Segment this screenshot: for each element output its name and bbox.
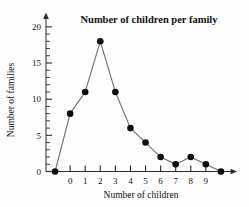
data-point [187, 154, 194, 161]
data-point [82, 89, 89, 96]
y-tick-label: 15 [32, 58, 42, 68]
data-point [97, 38, 104, 45]
line-chart-canvas: Number of children per family 05101520 0… [0, 0, 249, 207]
x-tick-label: 6 [158, 176, 163, 186]
y-tick-label: 5 [37, 131, 42, 141]
x-tick-label: 0 [68, 176, 73, 186]
chart-title: Number of children per family [80, 14, 218, 25]
data-point [172, 161, 179, 168]
data-point [157, 154, 164, 161]
data-point [67, 110, 74, 117]
y-tick-label: 20 [32, 22, 42, 32]
x-axis-title: Number of children [104, 190, 179, 200]
x-tick-label: 8 [189, 176, 194, 186]
data-point [127, 125, 134, 132]
y-tick-label: 0 [37, 167, 42, 177]
x-tick-label: 9 [204, 176, 209, 186]
x-tick-label: 2 [98, 176, 103, 186]
x-tick-label: 1 [83, 176, 88, 186]
data-point [142, 139, 149, 146]
x-tick-label: 3 [113, 176, 118, 186]
data-point [218, 168, 225, 175]
chart-figure: Number of children per family 05101520 0… [0, 0, 249, 207]
data-point [203, 161, 210, 168]
y-tick-label: 10 [32, 94, 42, 104]
x-tick-label: 7 [173, 176, 178, 186]
x-tick-label: 5 [143, 176, 148, 186]
data-point [52, 168, 59, 175]
x-tick-label: 4 [128, 176, 133, 186]
y-axis-title: Number of families [6, 63, 16, 138]
data-point [112, 89, 119, 96]
